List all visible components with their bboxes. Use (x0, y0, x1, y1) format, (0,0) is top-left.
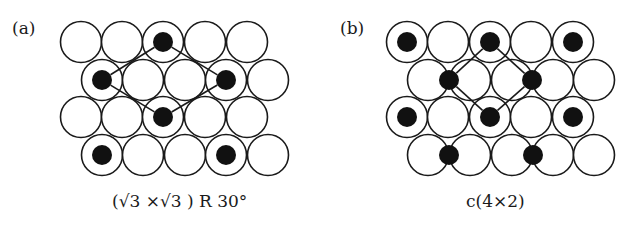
substrate-atom (102, 97, 143, 138)
adsorbate-atom (92, 145, 112, 165)
substrate-atom (165, 135, 206, 176)
caption-a-text: (√3 ×√3 ) R 30° (112, 191, 247, 211)
substrate-atom (511, 97, 552, 138)
adsorbate-atom (92, 70, 112, 90)
substrate-atom (185, 22, 226, 63)
substrate-atom (227, 22, 268, 63)
surface-reconstruction-diagram (0, 0, 630, 227)
adsorbate-atom (522, 70, 542, 90)
substrate-atom (102, 22, 143, 63)
adsorbate-atom (397, 107, 417, 127)
adsorbate-atom (563, 32, 583, 52)
substrate-atom (61, 22, 102, 63)
adsorbate-atom (563, 107, 583, 127)
substrate-atom (428, 97, 469, 138)
substrate-atom (248, 60, 289, 101)
adsorbate-atom (480, 107, 500, 127)
panel-a-caption: (√3 ×√3 ) R 30° (112, 191, 247, 211)
substrate-atom (574, 60, 615, 101)
substrate-atom (123, 135, 164, 176)
adsorbate-atom (439, 145, 459, 165)
adsorbate-atom (439, 70, 459, 90)
substrate-atom (428, 22, 469, 63)
adsorbate-atom (397, 32, 417, 52)
panel-a-sqrt3-lattice (61, 22, 289, 176)
substrate-atom (61, 97, 102, 138)
panel-b-caption: c(4×2) (466, 191, 525, 211)
adsorbate-atom (153, 32, 173, 52)
substrate-atom (574, 135, 615, 176)
adsorbate-atom (153, 107, 173, 127)
adsorbate-atom (480, 32, 500, 52)
substrate-atom (511, 22, 552, 63)
panel-b-c4x2-lattice (387, 22, 615, 176)
substrate-atom (123, 60, 164, 101)
adsorbate-atom (523, 145, 543, 165)
adsorbate-atom (216, 70, 236, 90)
substrate-atom (165, 60, 206, 101)
substrate-atom (248, 135, 289, 176)
adsorbate-atom (216, 145, 236, 165)
substrate-atom (185, 97, 226, 138)
substrate-atom (227, 97, 268, 138)
